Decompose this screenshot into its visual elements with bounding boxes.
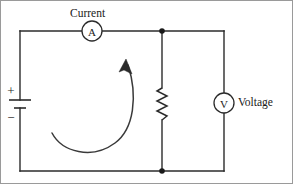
battery-plus-sign: + — [7, 83, 14, 98]
top-junction-dot — [159, 28, 165, 34]
circuit-diagram-figure: + − A V Current Voltage — [0, 0, 293, 184]
battery-minus-sign: − — [7, 110, 14, 125]
current-arrow-curve — [52, 65, 133, 152]
resistor-zigzag — [157, 88, 167, 120]
current-label: Current — [70, 8, 105, 20]
bottom-junction-dot — [159, 168, 165, 174]
circuit-schematic-svg: + − A V — [0, 0, 293, 184]
ammeter-symbol: A — [88, 26, 96, 38]
voltmeter-symbol: V — [220, 98, 228, 110]
current-arrow-head — [119, 59, 132, 74]
voltage-label: Voltage — [238, 97, 273, 109]
